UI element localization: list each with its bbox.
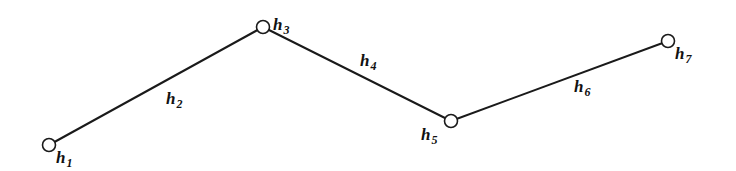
edge-h2 (49, 27, 263, 145)
chain-diagram: h2h4h6h1h3h5h7 (0, 0, 736, 171)
edge-label-h2: h2 (166, 89, 182, 111)
edge-h6 (451, 41, 668, 121)
edge-label-h4: h4 (360, 51, 376, 73)
edge-label-h6: h6 (574, 77, 590, 99)
node-h5-circle (445, 115, 458, 128)
node-label-h1: h1 (56, 148, 72, 170)
edge-h4 (263, 27, 451, 121)
node-h3-circle (257, 21, 270, 34)
node-label-h7: h7 (675, 44, 692, 66)
node-label-h5: h5 (421, 125, 437, 147)
node-label-h3: h3 (273, 15, 289, 37)
node-h7-circle (662, 35, 675, 48)
node-h1-circle (43, 139, 56, 152)
